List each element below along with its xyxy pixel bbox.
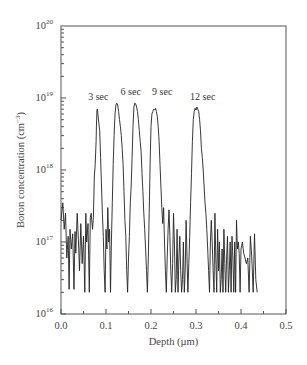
y-axis-tick-labels: 10161017101810191020	[36, 18, 54, 319]
y-tick-label: 1016	[36, 306, 54, 319]
peak-label: 3 sec	[88, 91, 109, 102]
x-axis-title: Depth (µm)	[149, 336, 199, 348]
x-tick-label: 0.4	[234, 320, 248, 331]
y-tick-label: 1019	[36, 90, 54, 103]
y-tick-base: 10	[36, 164, 47, 175]
boron-profile-chart: 10161017101810191020 0.00.10.20.30.40.5 …	[0, 0, 307, 365]
y-tick-label: 1018	[36, 162, 54, 175]
y-tick-exponent: 18	[46, 162, 54, 170]
peak-label: 9 sec	[152, 86, 173, 97]
peak-label: 6 sec	[121, 86, 142, 97]
y-tick-exponent: 17	[46, 234, 54, 242]
concentration-curve	[61, 103, 257, 292]
x-tick-label: 0.0	[54, 320, 67, 331]
peak-annotations: 3 sec6 sec9 sec12 sec	[88, 86, 216, 102]
x-tick-label: 0.5	[279, 320, 292, 331]
y-tick-base: 10	[36, 92, 47, 103]
y-tick-base: 10	[36, 308, 47, 319]
y-axis-ticks	[61, 29, 66, 314]
y-tick-base: 10	[36, 236, 47, 247]
x-tick-label: 0.1	[99, 320, 112, 331]
y-tick-label: 1020	[36, 18, 54, 31]
x-tick-label: 0.2	[144, 320, 157, 331]
x-axis-tick-labels: 0.00.10.20.30.40.5	[54, 320, 292, 331]
y-tick-exponent: 20	[46, 18, 54, 26]
x-axis-ticks	[61, 309, 286, 314]
y-axis-title-text: Boron concentration (cm	[15, 123, 27, 228]
y-axis-title: Boron concentration (cm−3)	[14, 112, 27, 228]
peak-label: 12 sec	[190, 91, 216, 102]
y-tick-exponent: 16	[46, 306, 54, 314]
y-tick-label: 1017	[36, 234, 54, 247]
y-axis-title-close: )	[15, 112, 27, 116]
y-tick-base: 10	[36, 20, 47, 31]
x-tick-label: 0.3	[189, 320, 202, 331]
y-tick-exponent: 19	[46, 90, 54, 98]
